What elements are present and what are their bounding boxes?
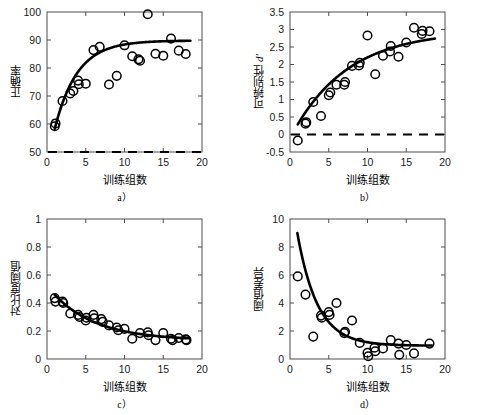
fit-curve [297,233,431,345]
x-tick-label: 0 [44,156,50,168]
y-tick-label: 2 [278,325,284,337]
y-tick-label: 50 [29,146,41,158]
y-tick-label: 0.5 [269,111,284,123]
data-point [128,334,137,343]
y-tick-label: 6 [278,269,284,281]
x-axis-label-b: 训练组数 [290,171,445,187]
y-tick-label: 0.4 [26,297,41,309]
panel-caption-c: c） [47,396,202,411]
y-tick-label: 0 [35,353,41,365]
y-axis-label-text: 可辨别性 [253,62,265,109]
x-tick-label: 5 [83,363,89,375]
x-axis-label-d: 训练组数 [290,378,445,394]
y-tick-label: 2.5 [269,41,284,53]
y-tick-label: 0.2 [26,325,41,337]
data-point [159,51,168,60]
data-point [363,31,372,40]
x-tick-label: 5 [326,156,332,168]
axes-frame [290,12,445,152]
y-tick-label: 8 [278,241,284,253]
x-tick-label: 10 [119,156,131,168]
x-tick-label: 0 [287,363,293,375]
y-tick-label: 1.5 [269,76,284,88]
y-axis-label-d: 阈值差异 [251,219,267,359]
data-point-group [50,294,190,345]
y-tick-label: -0.5 [266,146,284,158]
y-tick-label: 3.5 [269,6,284,18]
x-tick-label: 0 [287,156,293,168]
panel-c: 0510152000.20.40.60.81对比度阈值训练组数c） [0,207,242,415]
axes-frame [47,12,202,152]
data-point-group [293,272,433,360]
y-axis-label-text: 对比度阈值 [10,262,22,317]
x-tick-label: 10 [362,156,374,168]
data-point [317,112,326,121]
panel-b: 05101520-0.500.511.522.533.5可辨别性 d'训练组数b… [243,0,485,208]
y-tick-label: 1 [278,93,284,105]
data-point [293,136,302,145]
x-tick-label: 15 [157,363,169,375]
y-tick-label: 0 [278,128,284,140]
data-point-group [50,10,190,131]
y-tick-label: 90 [29,34,41,46]
data-point [181,50,190,59]
y-tick-label: 3 [278,23,284,35]
x-tick-label: 5 [83,156,89,168]
y-axis-label-text: 正确率 [10,66,22,99]
y-tick-label: 0.8 [26,241,41,253]
data-point [301,290,310,299]
x-tick-label: 20 [196,363,208,375]
data-point [394,53,403,62]
data-point [293,272,302,281]
y-tick-label: 70 [29,90,41,102]
y-tick-label: 4 [278,297,284,309]
x-axis-label-c: 训练组数 [47,378,202,394]
x-tick-label: 15 [400,156,412,168]
panel-caption-a: a） [47,189,202,204]
panel-caption-d: d） [290,396,445,411]
data-point [348,316,357,325]
panel-caption-b: b） [290,189,445,204]
y-tick-label: 1 [35,213,41,225]
x-tick-label: 10 [119,363,131,375]
data-point [143,10,152,19]
data-point [410,349,419,358]
y-axis-label-c: 对比度阈值 [8,219,24,359]
y-tick-label: 0 [278,353,284,365]
y-tick-label: 100 [23,6,41,18]
x-tick-label: 15 [400,363,412,375]
x-tick-label: 20 [439,156,451,168]
x-tick-label: 0 [44,363,50,375]
x-tick-label: 20 [196,156,208,168]
data-point [309,332,318,341]
figure-container: 051015205060708090100正确率训练组数a）05101520-0… [0,0,485,415]
y-tick-label: 60 [29,118,41,130]
data-point [395,351,404,360]
x-axis-label-a: 训练组数 [47,171,202,187]
x-tick-label: 20 [439,363,451,375]
y-axis-label-b: 可辨别性 d' [251,12,267,152]
fit-curve [298,39,435,125]
data-point [112,72,121,81]
y-tick-label: 2 [278,58,284,70]
y-tick-label: 10 [272,213,284,225]
y-axis-label-symbol: d' [253,55,265,63]
x-tick-label: 5 [326,363,332,375]
data-point [379,344,388,353]
panel-a: 051015205060708090100正确率训练组数a） [0,0,242,208]
x-tick-label: 15 [157,156,169,168]
data-point [105,80,114,89]
y-tick-label: 80 [29,62,41,74]
y-axis-label-a: 正确率 [8,12,24,152]
y-axis-label-text: 阈值差异 [253,267,265,311]
y-tick-label: 0.6 [26,269,41,281]
data-point [371,70,380,79]
data-point [326,88,335,97]
panel-d: 051015200246810阈值差异训练组数d） [243,207,485,415]
axes-frame [290,219,445,359]
data-point [410,23,419,32]
x-tick-label: 10 [362,363,374,375]
data-point [332,299,341,308]
